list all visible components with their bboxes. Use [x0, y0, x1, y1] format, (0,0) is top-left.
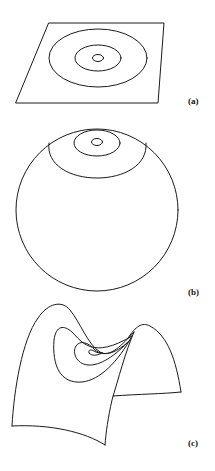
- sphere-contour-inner: [92, 139, 103, 146]
- sphere-contour-middle: [74, 130, 120, 156]
- panel-c-label: (c): [188, 438, 198, 448]
- plane-contour-middle: [75, 45, 121, 71]
- panel-a-plane: [16, 23, 164, 103]
- sphere-contour-outer: [49, 143, 146, 178]
- panel-b-label: (b): [188, 287, 199, 297]
- plane-surface: [16, 23, 164, 103]
- sphere-outline: [16, 129, 178, 291]
- panel-b-sphere: [16, 129, 178, 291]
- saddle-right-bottom-edge: [113, 392, 181, 396]
- plane-contour-outer: [49, 29, 147, 87]
- figure-canvas: [0, 0, 215, 471]
- plane-contour-inner: [93, 55, 104, 62]
- saddle-bottom-edge: [12, 426, 105, 445]
- saddle-right-peak: [128, 325, 181, 393]
- saddle-left-edge: [12, 304, 134, 426]
- panel-a-label: (a): [188, 96, 199, 106]
- panel-c-saddle: [12, 304, 181, 445]
